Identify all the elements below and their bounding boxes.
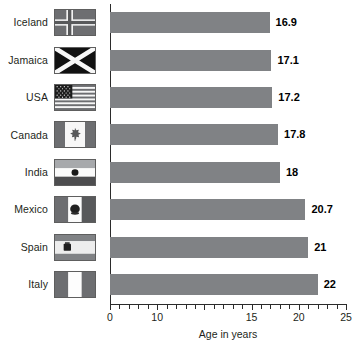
x-axis-tick — [252, 304, 253, 310]
x-axis-tick — [233, 304, 234, 309]
bar-value-label: 16.9 — [276, 17, 297, 28]
category-label: Jamaica — [0, 55, 52, 66]
x-axis-tick — [129, 304, 130, 309]
bar — [110, 124, 278, 145]
x-axis-title: Age in years — [110, 329, 346, 340]
x-axis-tick-label: 10 — [151, 312, 163, 323]
x-axis-tick — [327, 304, 328, 309]
category-label: Iceland — [0, 17, 52, 28]
x-axis-tick-label: 15 — [246, 312, 258, 323]
x-axis-tick — [186, 304, 187, 309]
x-axis-tick — [299, 304, 300, 310]
bar — [110, 162, 280, 183]
x-axis-tick — [223, 304, 224, 309]
bar-chart: Iceland Jamaica USA — [0, 0, 353, 346]
x-axis-tick — [270, 304, 271, 309]
plot-area: 16.917.117.217.81820.72122 — [110, 4, 346, 304]
x-axis-tick — [308, 304, 309, 309]
x-axis-tick — [176, 304, 177, 309]
x-axis-tick — [214, 304, 215, 309]
bar — [110, 12, 270, 33]
x-axis-tick — [242, 304, 243, 309]
category-label: Spain — [0, 242, 52, 253]
x-axis-tick — [261, 304, 262, 309]
bar — [110, 237, 308, 258]
category-label: Canada — [0, 130, 52, 141]
x-axis-tick — [195, 304, 196, 309]
bar — [110, 274, 318, 295]
x-axis-tick — [110, 304, 111, 310]
bar — [110, 199, 305, 220]
flag-india-icon — [54, 159, 96, 186]
x-axis-tick — [148, 304, 149, 309]
x-axis-tick — [346, 304, 347, 310]
category-label: Mexico — [0, 204, 52, 215]
category-label: USA — [0, 92, 52, 103]
category-label: India — [0, 167, 52, 178]
x-axis-tick — [289, 304, 290, 309]
bar-value-label: 22 — [324, 279, 336, 290]
bar — [110, 87, 272, 108]
flag-italy-icon — [54, 271, 96, 298]
x-axis-tick — [119, 304, 120, 309]
x-axis-tick — [157, 304, 158, 310]
bar-value-label: 20.7 — [311, 204, 332, 215]
bar-value-label: 17.2 — [278, 92, 299, 103]
bar-value-label: 17.8 — [284, 129, 305, 140]
x-axis-tick — [138, 304, 139, 309]
x-axis-tick — [337, 304, 338, 309]
flag-canada-icon — [54, 121, 96, 148]
x-axis: Age in years 010152025 — [110, 304, 346, 346]
flag-usa-icon — [54, 84, 96, 111]
bar-value-label: 18 — [286, 167, 298, 178]
x-axis-tick — [167, 304, 168, 309]
x-axis-line — [110, 304, 346, 305]
x-axis-tick — [280, 304, 281, 309]
bar — [110, 50, 271, 71]
x-axis-tick-label: 20 — [293, 312, 305, 323]
bar-value-label: 21 — [314, 242, 326, 253]
flag-mexico-icon — [54, 196, 96, 223]
x-axis-tick — [204, 304, 205, 310]
x-axis-tick-label: 0 — [107, 312, 113, 323]
x-axis-tick-label: 25 — [340, 312, 352, 323]
flag-iceland-icon — [54, 9, 96, 36]
x-axis-tick — [318, 304, 319, 309]
flag-jamaica-icon — [54, 47, 96, 74]
flag-spain-icon — [54, 234, 96, 261]
category-label: Italy — [0, 279, 52, 290]
bar-value-label: 17.1 — [277, 55, 298, 66]
